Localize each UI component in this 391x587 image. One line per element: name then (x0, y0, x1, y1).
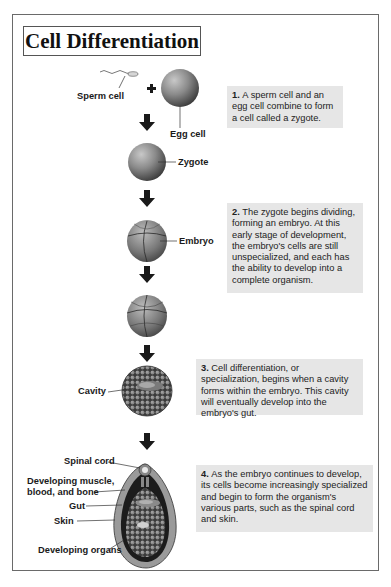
label-gut: Gut (69, 501, 85, 512)
step-text: The zygote begins dividing, forming an e… (232, 207, 355, 285)
egg-cell-icon (161, 69, 199, 128)
embryo-icon (127, 220, 177, 262)
label-muscle-line1: Developing muscle, (27, 476, 114, 487)
arrow-down-icon (139, 190, 155, 207)
plus-sign (147, 84, 156, 93)
label-developing-organs: Developing organs (38, 545, 122, 556)
label-cavity: Cavity (78, 386, 106, 397)
sperm-cell-icon (100, 71, 138, 89)
arrow-down-icon (139, 433, 155, 450)
step-number: 2. (232, 207, 240, 217)
zygote-icon (128, 143, 176, 181)
label-sperm-cell: Sperm cell (77, 91, 124, 102)
step-1-note: 1. A sperm cell and an egg cell combine … (227, 86, 343, 128)
step-number: 3. (201, 363, 209, 373)
label-skin: Skin (54, 516, 74, 527)
label-muscle-line2: blood, and bone (27, 487, 99, 498)
step-3-note: 3. Cell differentiation, or specializati… (196, 359, 363, 415)
step-2-note: 2. The zygote begins dividing, forming a… (227, 203, 363, 293)
arrow-down-icon (139, 114, 155, 131)
cavity-embryo-icon (108, 366, 172, 416)
step-text: A sperm cell and an egg cell combine to … (232, 90, 333, 123)
step-number: 4. (201, 469, 209, 479)
label-spinal-cord: Spinal cord (64, 456, 115, 467)
step-number: 1. (232, 90, 240, 100)
step-text: Cell differentiation, or specialization,… (201, 363, 349, 418)
arrow-down-icon (139, 345, 155, 362)
step-text: As the embryo continues to develop, its … (201, 469, 367, 524)
arrow-down-icon (139, 266, 155, 283)
label-egg-cell: Egg cell (170, 129, 206, 140)
step-4-note: 4. As the embryo continues to develop, i… (196, 465, 373, 532)
embryo-8-cell-icon (127, 295, 167, 337)
label-zygote: Zygote (178, 157, 208, 168)
developed-embryo-icon (114, 464, 176, 568)
label-embryo: Embryo (179, 236, 214, 247)
